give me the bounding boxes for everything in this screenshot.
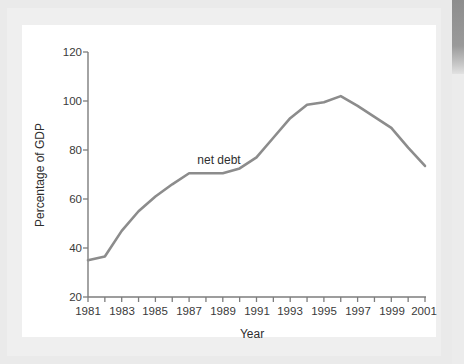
y-tick-label-20: 20 [69, 291, 82, 303]
series-line-net-debt [88, 96, 425, 260]
x-tick-label-1995: 1995 [311, 305, 337, 317]
x-tick-label-1997: 1997 [345, 305, 371, 317]
x-tick-label-1983: 1983 [109, 305, 135, 317]
line-chart: 120 100 80 60 40 20 1981 1983 1985 1987 … [0, 0, 464, 364]
x-tick-label-1991: 1991 [244, 305, 270, 317]
x-tick-label-1985: 1985 [142, 305, 168, 317]
x-tick-label-1999: 1999 [379, 305, 405, 317]
x-tick-label-1989: 1989 [210, 305, 236, 317]
y-tick-label-60: 60 [69, 193, 82, 205]
series-annotation-net-debt: net debt [197, 153, 241, 167]
x-tick-label-1987: 1987 [176, 305, 202, 317]
y-axis-title: Percentage of GDP [33, 123, 47, 227]
y-tick-label-100: 100 [63, 95, 82, 107]
page-background: 120 100 80 60 40 20 1981 1983 1985 1987 … [0, 0, 464, 364]
chart-svg: 120 100 80 60 40 20 1981 1983 1985 1987 … [0, 0, 464, 364]
x-axis-ticks [88, 297, 425, 302]
y-tick-label-40: 40 [69, 242, 82, 254]
x-axis-title: Year [240, 327, 264, 341]
y-tick-label-120: 120 [63, 46, 82, 58]
x-tick-label-1981: 1981 [75, 305, 101, 317]
x-tick-label-2001: 2001 [411, 305, 437, 317]
y-tick-label-80: 80 [69, 144, 82, 156]
x-tick-label-1993: 1993 [277, 305, 303, 317]
